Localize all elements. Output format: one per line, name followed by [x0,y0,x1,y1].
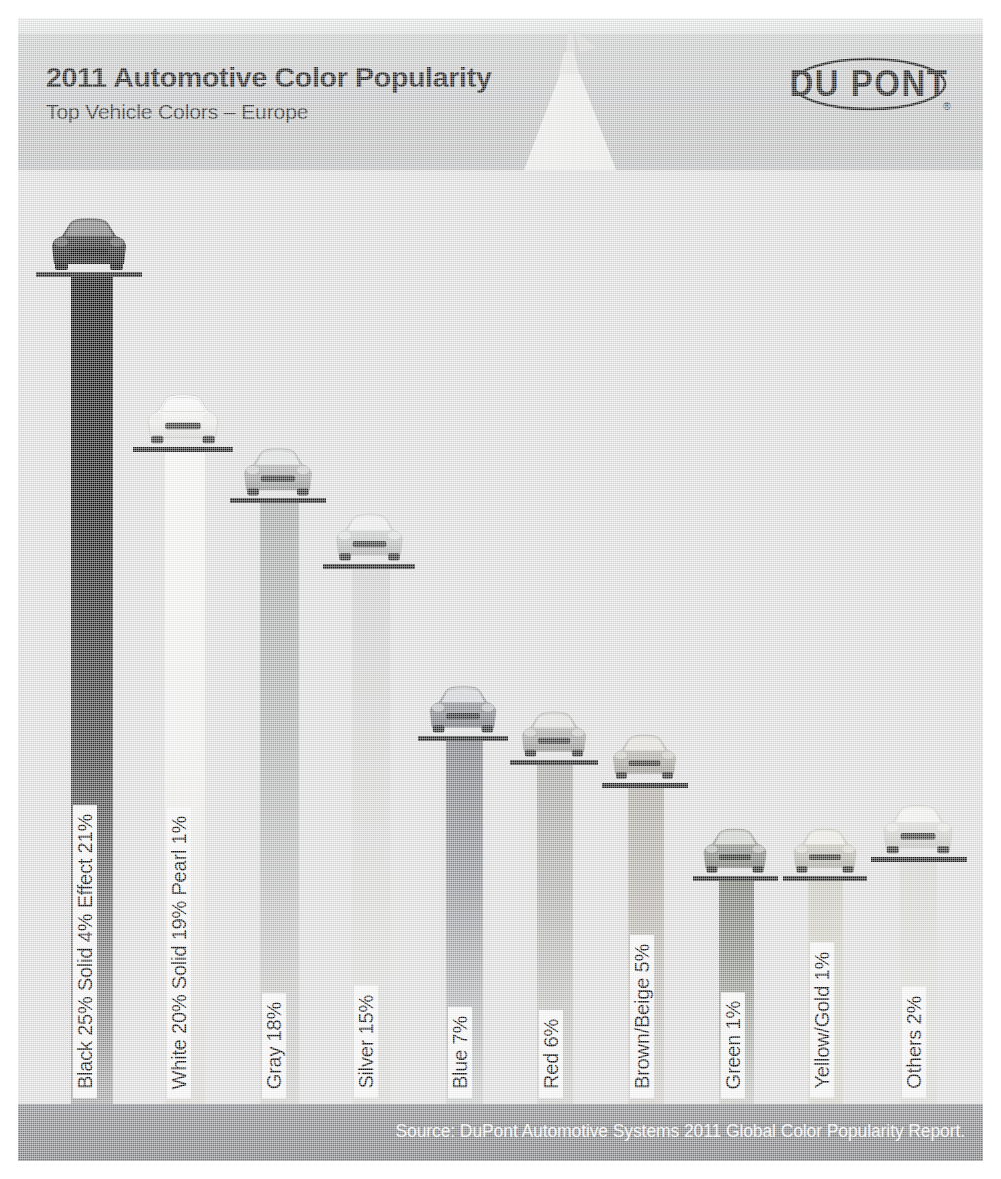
bar-label-silver: Silver 15% [354,986,378,1098]
bar-chart: Black 25% Solid 4% Effect 21% White 20% … [18,170,983,1104]
car-front-yellow-icon [788,824,862,876]
bar-group-brown-beige: Brown/Beige 5% [602,738,688,1104]
bar-label-yellow-gold: Yellow/Gold 1% [810,943,834,1098]
bar-label-green: Green 1% [721,992,745,1098]
bar-group-red: Red 6% [510,715,598,1104]
bar-label-white: White 20% Solid 19% Pearl 1% [167,807,191,1098]
source-note: Source: DuPont Automotive Systems 2011 G… [396,1121,966,1142]
footer-band: Source: DuPont Automotive Systems 2011 G… [18,1104,983,1161]
dupont-logo-text: DU PONT [790,63,949,104]
bar-group-blue: Blue 7% [418,690,508,1104]
bar-label-red: Red 6% [539,1010,563,1098]
bar-label-blue: Blue 7% [448,1007,472,1098]
bar-group-silver: Silver 15% [323,518,415,1104]
bar-label-brown-beige: Brown/Beige 5% [630,935,654,1098]
bar-group-gray: Gray 18% [230,452,326,1104]
page-subtitle: Top Vehicle Colors – Europe [46,100,491,124]
car-front-gray-icon [238,443,318,499]
bar-group-black: Black 25% Solid 4% Effect 21% [36,224,142,1104]
bar-group-white: White 20% Solid 19% Pearl 1% [133,399,233,1104]
registered-trademark-icon: ® [943,101,951,112]
car-front-white-icon [141,389,225,447]
car-front-black-icon [46,212,132,274]
bar-label-black: Black 25% Solid 4% Effect 21% [73,805,97,1098]
car-front-blue-icon [424,681,502,736]
infographic-poster: 2011 Automotive Color Popularity Top Veh… [18,18,983,1161]
page-title: 2011 Automotive Color Popularity [46,62,491,93]
bar-group-others: Others 2% [871,810,967,1104]
bar-group-yellow-gold: Yellow/Gold 1% [783,832,867,1104]
car-front-green-icon [698,824,772,876]
dupont-logo: DU PONT ® [789,56,957,118]
bar-label-gray: Gray 18% [262,993,286,1098]
dupont-logo-icon: DU PONT ® [789,56,957,118]
bar-group-green: Green 1% [693,832,778,1104]
car-front-silver-icon [330,509,409,564]
perspective-road-icon [500,18,640,170]
title-block: 2011 Automotive Color Popularity Top Veh… [46,62,491,124]
car-front-brown-icon [607,730,682,782]
car-front-red-icon [516,707,592,760]
car-front-others-icon [877,800,959,857]
bar-label-others: Others 2% [902,987,926,1098]
